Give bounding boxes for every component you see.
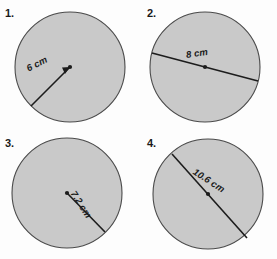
center-dot <box>206 192 210 196</box>
circle-figure-3: 7.2 cm <box>0 130 138 259</box>
center-dot <box>203 65 207 69</box>
center-dot <box>68 65 72 69</box>
problem-3: 3. 7.2 cm <box>0 130 138 259</box>
problem-2: 2. 8 cm <box>139 0 277 129</box>
circle-figure-4: 10.6 cm <box>139 130 277 259</box>
problem-4: 4. 10.6 cm <box>139 130 277 259</box>
circle-figure-1: 6 cm <box>0 0 138 129</box>
circle-figure-2: 8 cm <box>139 0 277 129</box>
problem-1: 1. 6 cm <box>0 0 138 129</box>
worksheet-page: 1. 6 cm 2. 8 cm 3. <box>0 0 277 259</box>
